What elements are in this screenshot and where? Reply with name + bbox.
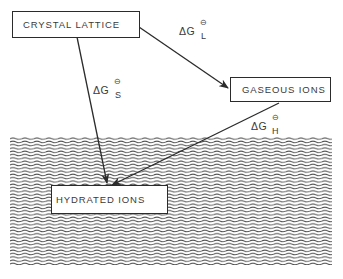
hydrated-ions-box: HYDRATED IONS — [51, 185, 168, 214]
standard-state-symbol: ⊖ — [272, 113, 280, 122]
subscript-s: S — [115, 90, 122, 100]
subscript-l: L — [201, 31, 207, 41]
hydrated-ions-label: HYDRATED IONS — [56, 194, 145, 205]
water-region — [0, 0, 343, 279]
delta-g-hydration-label: ΔG ⊖ H — [251, 120, 267, 132]
delta-g-symbol: ΔG — [179, 25, 195, 37]
crystal-lattice-label: CRYSTAL LATTICE — [23, 19, 120, 30]
crystal-lattice-box: CRYSTAL LATTICE — [12, 11, 140, 38]
subscript-h: H — [272, 126, 279, 136]
delta-g-symbol: ΔG — [251, 120, 267, 132]
gaseous-ions-box: GASEOUS IONS — [230, 77, 331, 102]
delta-g-symbol: ΔG — [93, 84, 109, 96]
hess-cycle-diagram: CRYSTAL LATTICE GASEOUS IONS HYDRATED IO… — [0, 0, 343, 279]
delta-g-lattice-label: ΔG ⊖ L — [179, 25, 195, 37]
gaseous-ions-label: GASEOUS IONS — [242, 84, 326, 95]
standard-state-symbol: ⊖ — [200, 18, 208, 27]
standard-state-symbol: ⊖ — [114, 77, 122, 86]
delta-g-solution-label: ΔG ⊖ S — [93, 84, 109, 96]
